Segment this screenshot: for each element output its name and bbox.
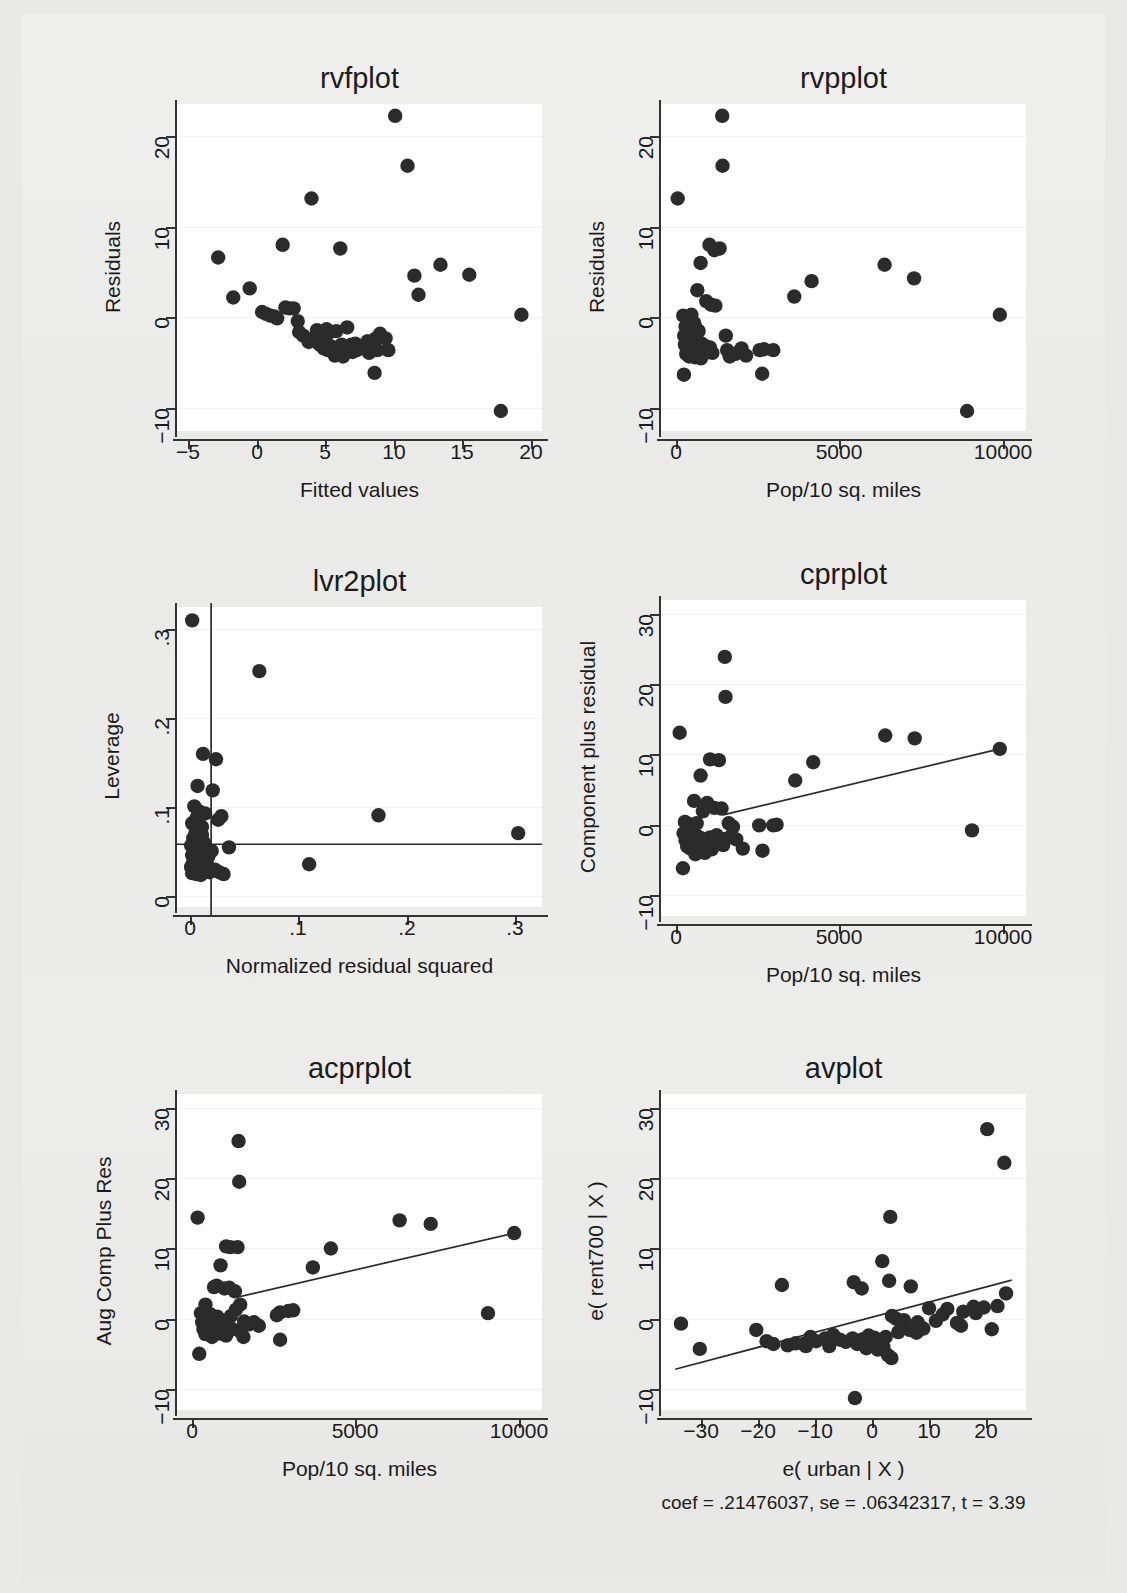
coefficient-note: coef = .21476037, se = .06342317, t = 3.… [551,1492,1127,1514]
data-point [799,1339,813,1353]
data-point [999,1286,1013,1300]
data-point [775,1278,789,1292]
data-point [693,1342,707,1356]
data-point [875,1254,889,1268]
data-point [855,1281,869,1295]
data-point [749,1323,763,1337]
data-point [922,1301,936,1315]
data-point [956,1304,970,1318]
data-point [969,1306,983,1320]
data-point [904,1279,918,1293]
data-point [848,1391,862,1405]
panel-avplot: avplot−100102030−30−20−1001020e( urban |… [0,0,1127,1593]
plot-grid: rvfplot−1001020−505101520Fitted valuesRe… [0,0,1127,1593]
data-point [997,1156,1011,1170]
data-point [954,1319,968,1333]
data-point [980,1122,994,1136]
data-layer-avplot [0,0,1127,1593]
data-point [990,1299,1004,1313]
data-point [674,1316,688,1330]
data-point [766,1337,780,1351]
data-point [883,1210,897,1224]
data-point [881,1348,895,1362]
data-point [916,1321,930,1335]
data-point [822,1339,836,1353]
data-point [985,1322,999,1336]
data-point [936,1307,950,1321]
data-point [882,1274,896,1288]
